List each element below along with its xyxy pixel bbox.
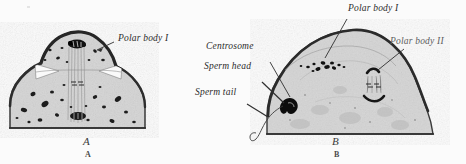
caption-panel-b: B [332,136,339,147]
panel-b-leader-sperm-tail [247,104,268,117]
label-panel-b-centrosome: Centrosome [206,42,254,52]
label-panel-a-polar-body-1: Polar body I [118,34,168,44]
caption-panel-b-sub: B [334,151,340,159]
label-panel-b-sperm-head: Sperm head [204,62,251,72]
panel-a-polar-body-chromosomes [68,40,86,49]
label-panel-b-sperm-tail: Sperm tail [195,88,236,98]
panel-a-cell [9,32,146,128]
scan-artifacts [27,6,30,8]
caption-panel-a-sub: A [85,151,91,159]
figure-plate [0,0,466,164]
label-panel-b-polar-body-1: Polar body I [348,4,398,14]
caption-panel-a: A [83,136,90,147]
label-panel-b-polar-body-2: Polar body II [390,37,444,47]
